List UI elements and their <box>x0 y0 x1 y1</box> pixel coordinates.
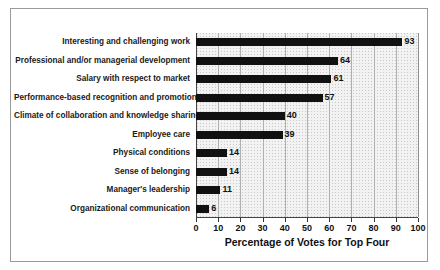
category-label: Professional and/or managerial developme… <box>14 52 194 71</box>
tick-label: 10 <box>213 223 223 233</box>
bar-value-label: 39 <box>285 127 295 142</box>
category-label: Sense of belonging <box>14 163 194 182</box>
tick-mark <box>374 218 375 222</box>
tick-label: 0 <box>193 223 198 233</box>
tick-label: 20 <box>235 223 245 233</box>
bar-row: 61 <box>196 70 418 89</box>
bar-row: 11 <box>196 181 418 200</box>
category-axis-labels: Interesting and challenging workProfessi… <box>14 33 194 218</box>
bar <box>196 94 323 102</box>
tick-label: 90 <box>391 223 401 233</box>
tick-label: 80 <box>369 223 379 233</box>
bar-series: 9364615740391414116 <box>196 33 418 218</box>
tick-label: 70 <box>346 223 356 233</box>
bar-value-label: 93 <box>404 34 414 49</box>
tick-mark <box>263 218 264 222</box>
bar-row: 39 <box>196 126 418 145</box>
category-label: Employee care <box>14 126 194 145</box>
bar-row: 64 <box>196 52 418 71</box>
bar-row: 14 <box>196 163 418 182</box>
bar-row: 40 <box>196 107 418 126</box>
tick-mark <box>329 218 330 222</box>
bar-value-label: 14 <box>229 145 239 160</box>
chart-figure: Interesting and challenging workProfessi… <box>0 0 440 270</box>
bar-row: 57 <box>196 89 418 108</box>
bar-value-label: 61 <box>333 71 343 86</box>
category-label: Salary with respect to market <box>14 70 194 89</box>
bar <box>196 112 285 120</box>
bar-value-label: 57 <box>325 90 335 105</box>
category-label: Interesting and challenging work <box>14 33 194 52</box>
bar-value-label: 14 <box>229 164 239 179</box>
gridline <box>418 33 419 217</box>
tick-mark <box>307 218 308 222</box>
bar-value-label: 40 <box>287 108 297 123</box>
bar <box>196 57 338 65</box>
tick-mark <box>285 218 286 222</box>
bar <box>196 149 227 157</box>
bar <box>196 186 220 194</box>
category-label: Climate of collaboration and knowledge s… <box>14 107 194 126</box>
bar-row: 6 <box>196 200 418 219</box>
tick-label: 60 <box>324 223 334 233</box>
tick-mark <box>218 218 219 222</box>
tick-mark <box>396 218 397 222</box>
tick-mark <box>196 218 197 222</box>
bar <box>196 75 331 83</box>
x-axis-title: Percentage of Votes for Top Four <box>196 236 418 248</box>
bar-value-label: 6 <box>211 201 216 216</box>
category-label: Organizational communication <box>14 200 194 219</box>
tick-mark <box>418 218 419 222</box>
category-label: Physical conditions <box>14 144 194 163</box>
bar <box>196 131 283 139</box>
tick-label: 100 <box>410 223 425 233</box>
bar <box>196 168 227 176</box>
bar <box>196 38 402 46</box>
bar-value-label: 64 <box>340 53 350 68</box>
category-label: Manager's leadership <box>14 181 194 200</box>
category-label: Performance-based recognition and promot… <box>14 89 194 108</box>
tick-mark <box>351 218 352 222</box>
tick-label: 40 <box>280 223 290 233</box>
bar-value-label: 11 <box>222 182 232 197</box>
bar <box>196 205 209 213</box>
tick-mark <box>240 218 241 222</box>
bar-row: 93 <box>196 33 418 52</box>
tick-label: 30 <box>258 223 268 233</box>
bar-row: 14 <box>196 144 418 163</box>
tick-label: 50 <box>302 223 312 233</box>
